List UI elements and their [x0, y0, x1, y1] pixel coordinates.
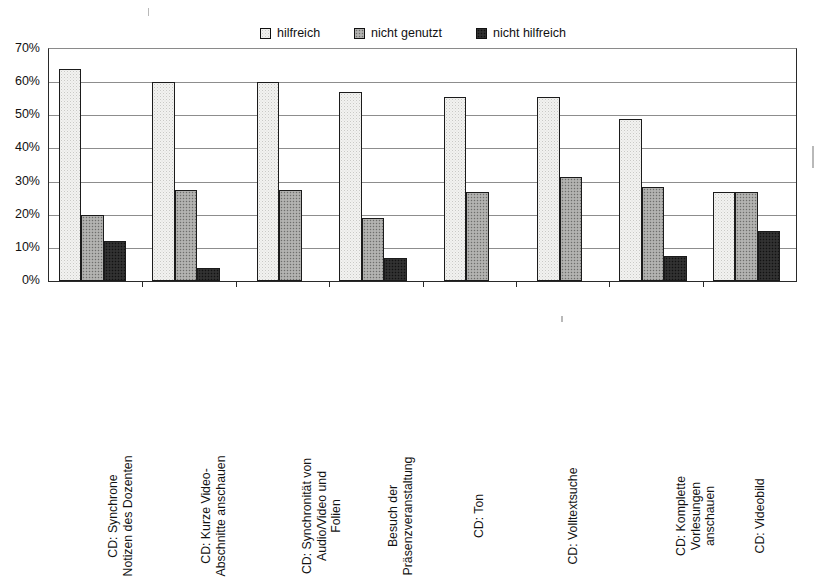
x-axis-label-line: Notizen des Dozenten [121, 440, 136, 581]
bar-light [257, 82, 280, 281]
bar-mid [175, 190, 198, 281]
x-axis-label-line: Audio/Video und [315, 440, 330, 581]
bar-group [423, 49, 516, 281]
y-axis-tick-label: 60% [0, 75, 40, 87]
bar-dark [384, 258, 407, 281]
x-axis-label-line: CD: Komplette [674, 440, 689, 581]
legend-label: hilfreich [277, 27, 320, 39]
x-axis-category-label: CD: Videobild [753, 440, 768, 581]
bar-light [152, 82, 175, 281]
legend-label: nicht hilfreich [493, 27, 566, 39]
bar-light [537, 97, 560, 281]
x-axis-label-line: CD: Synchrone [106, 440, 121, 581]
x-axis-label-line: CD: Kurze Video- [199, 440, 214, 581]
x-axis-tick [703, 281, 704, 287]
bar-dark [664, 256, 687, 281]
x-axis-label-line: CD: Videobild [753, 440, 768, 581]
x-axis-label-line: CD: Ton [472, 440, 487, 581]
y-axis-tick-label: 40% [0, 141, 40, 153]
x-axis-tick [142, 281, 143, 287]
legend-item-light: hilfreich [260, 27, 320, 39]
x-axis-tick [236, 281, 237, 287]
y-axis-tick-label: 0% [0, 274, 40, 286]
x-axis-category-label: CD: SynchroneNotizen des Dozenten [106, 440, 135, 581]
legend-swatch-icon [354, 28, 365, 39]
bar-light [713, 192, 736, 281]
x-axis-category-label: Besuch derPräsenzveranstaltung [386, 440, 415, 581]
x-axis-category-label: CD: Ton [472, 440, 487, 581]
bar-group [236, 49, 329, 281]
chart-legend: hilfreichnicht genutztnicht hilfreich [0, 24, 826, 42]
legend-swatch-icon [260, 28, 271, 39]
bar-mid [466, 192, 489, 281]
x-axis-category-label: CD: KompletteVorlesungenanschauen [674, 440, 718, 581]
x-axis-label-line: CD: Synchronität von [300, 440, 315, 581]
x-axis-tick [609, 281, 610, 287]
bar-light [339, 92, 362, 281]
bar-light [59, 69, 82, 281]
x-axis-label-line: Folien [329, 440, 344, 581]
bar-mid [362, 218, 385, 281]
x-axis-label-line: Besuch der [386, 440, 401, 581]
x-axis-tick [329, 281, 330, 287]
scan-artifact [148, 8, 149, 16]
x-axis-labels: CD: SynchroneNotizen des DozentenCD: Kur… [48, 288, 795, 443]
bar-mid [560, 177, 583, 281]
bar-mid [279, 190, 302, 281]
x-axis-label-line: CD: Volltextsuche [566, 440, 581, 581]
x-axis-category-label: CD: Kurze Video-Abschnitte anschauen [199, 440, 228, 581]
y-axis-tick-label: 10% [0, 241, 40, 253]
y-axis-tick-label: 30% [0, 175, 40, 187]
bar-dark [758, 231, 781, 281]
legend-item-mid: nicht genutzt [354, 27, 442, 39]
plot-area [48, 48, 797, 282]
x-axis-category-label: CD: Synchronität vonAudio/Video undFolie… [300, 440, 344, 581]
legend-swatch-icon [476, 28, 487, 39]
bar-group [609, 49, 702, 281]
bar-group [329, 49, 422, 281]
bar-group [703, 49, 796, 281]
legend-label: nicht genutzt [371, 27, 442, 39]
x-axis-category-label: CD: Volltextsuche [566, 440, 581, 581]
x-axis-tick [423, 281, 424, 287]
bar-mid [81, 215, 104, 281]
scan-artifact [812, 146, 814, 168]
x-axis-label-line: Vorlesungen [688, 440, 703, 581]
y-axis-labels: 0%10%20%30%40%50%60%70% [0, 0, 44, 448]
bar-light [444, 97, 467, 281]
x-axis-label-line: Präsenzveranstaltung [401, 440, 416, 581]
y-axis-tick-label: 20% [0, 208, 40, 220]
x-axis-label-line: anschauen [703, 440, 718, 581]
y-axis-tick-label: 70% [0, 42, 40, 54]
x-axis-tick [516, 281, 517, 287]
bar-light [619, 119, 642, 281]
y-axis-tick-label: 50% [0, 108, 40, 120]
bar-group [142, 49, 235, 281]
x-axis-label-line: Abschnitte anschauen [214, 440, 229, 581]
bar-dark [104, 241, 127, 281]
bar-mid [642, 187, 665, 281]
bar-mid [735, 192, 758, 281]
bar-dark [197, 268, 220, 281]
bar-group [516, 49, 609, 281]
bar-group [49, 49, 142, 281]
legend-item-dark: nicht hilfreich [476, 27, 566, 39]
